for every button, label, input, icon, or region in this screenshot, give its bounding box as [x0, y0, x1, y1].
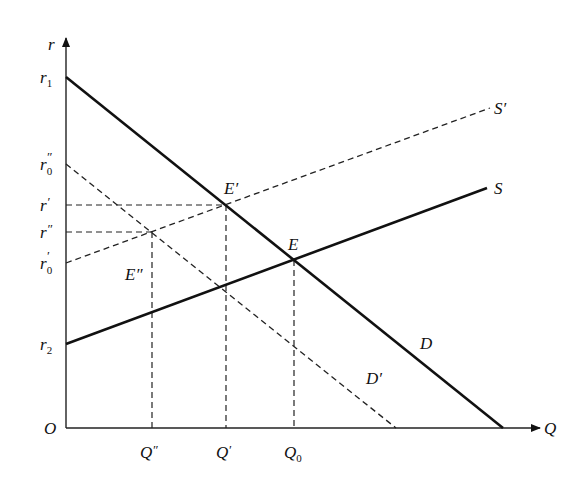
x-axis-label: Q [544, 419, 556, 438]
tick-Q0: Q0 [284, 443, 302, 464]
label-E-prime: E′ [223, 179, 238, 198]
tick-r0-prime: r0′ [40, 248, 53, 276]
supply-demand-diagram: r r1 r0″ r′ r″ r0′ r2 O Q Q″ Q′ Q0 S′ S … [0, 0, 588, 493]
label-S-prime: S′ [494, 99, 507, 118]
origin-label: O [44, 419, 56, 438]
label-S: S [494, 179, 503, 198]
tick-Q-prime: Q′ [216, 442, 231, 462]
tick-r0-double-prime: r0″ [40, 149, 53, 177]
label-E-double-prime: E″ [124, 265, 143, 284]
supply-curve-S-prime [66, 108, 490, 263]
demand-curve-D-prime [66, 164, 396, 428]
tick-Q-double-prime: Q″ [140, 442, 158, 462]
tick-r-double-prime: r″ [40, 221, 53, 242]
demand-curve-D [66, 77, 503, 428]
tick-r-prime: r′ [40, 194, 50, 215]
tick-r1: r1 [40, 68, 52, 89]
label-D: D [419, 334, 433, 353]
label-E: E [287, 235, 299, 254]
tick-r2: r2 [40, 335, 52, 356]
label-D-prime: D′ [365, 369, 382, 388]
y-axis-label: r [48, 35, 55, 54]
